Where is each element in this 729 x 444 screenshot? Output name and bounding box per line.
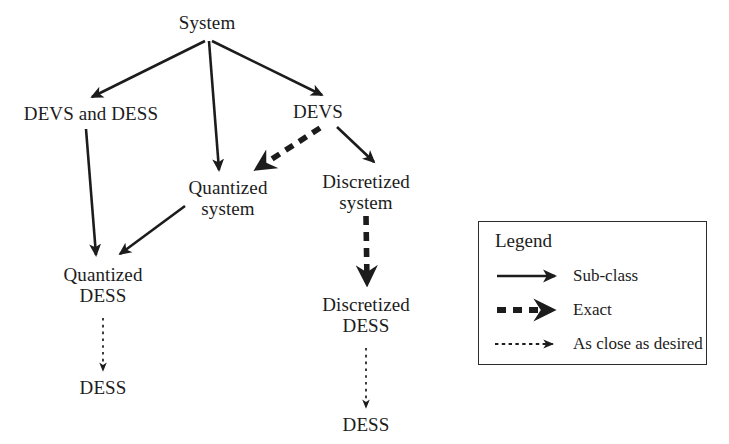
legend-swatch-solid-arrow [493, 263, 567, 289]
node-system: System [179, 12, 236, 33]
edge-devs-to-discretized-system [337, 127, 374, 162]
legend-swatch-thick-dashed-arrow [493, 297, 567, 323]
edge-system-to-quantized-system [209, 41, 219, 170]
legend-title: Legend [495, 230, 552, 252]
edge-system-to-devs-and-dess [92, 41, 205, 97]
legend-label-exact: Exact [573, 299, 612, 321]
node-quantized-system: Quantized system [189, 177, 268, 219]
edge-quantized-system-to-quantized-dess [120, 206, 185, 254]
node-discretized-system: Discretized system [322, 171, 410, 213]
node-discretized-dess: Discretized DESS [322, 294, 410, 336]
edge-discretized-system-to-discretized-dess [366, 216, 367, 282]
edge-system-to-devs [212, 41, 322, 95]
legend-box: Legend Sub-class Ex [478, 221, 707, 365]
node-quantized-dess: Quantized DESS [64, 264, 143, 306]
legend-label-sub-class: Sub-class [573, 265, 638, 287]
edge-devs-to-quantized-system [258, 128, 320, 168]
legend-item-exact: Exact [493, 297, 698, 323]
node-devs-and-dess: DEVS and DESS [24, 103, 158, 124]
node-devs: DEVS [293, 101, 343, 122]
edge-devs-and-dess-to-quantized-dess [86, 129, 96, 255]
legend-label-as-close-as-desired: As close as desired [573, 333, 703, 355]
legend-item-sub-class: Sub-class [493, 263, 698, 289]
legend-swatch-thin-dotted-arrow [493, 331, 567, 357]
node-dess-left: DESS [80, 377, 127, 398]
diagram-canvas: System DEVS and DESS DEVS Quantized syst… [0, 0, 729, 444]
legend-item-as-close-as-desired: As close as desired [493, 331, 698, 357]
node-dess-right: DESS [343, 414, 390, 435]
